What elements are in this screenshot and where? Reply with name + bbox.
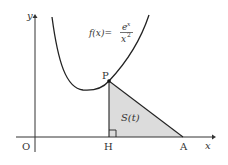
label-y-axis: y [26, 10, 33, 21]
function-curve [52, 15, 149, 90]
label-x-axis: x [205, 140, 211, 151]
label-A: A [179, 141, 188, 152]
function-label-den: x [121, 34, 126, 44]
label-origin: O [22, 141, 30, 152]
function-label: f(x)= e x x 2 [88, 20, 133, 44]
label-region: S(t) [121, 112, 140, 123]
function-label-num-exp: x [127, 20, 131, 27]
label-P: P [102, 70, 109, 81]
label-H: H [104, 141, 113, 152]
diagram-svg: y x O P H A S(t) f(x)= e x x 2 [0, 0, 228, 165]
function-label-lhs: f(x)= [88, 28, 112, 38]
function-label-den-exp: 2 [127, 31, 131, 38]
y-axis-arrow-icon [33, 14, 38, 18]
x-axis-arrow-icon [212, 135, 216, 140]
diagram: y x O P H A S(t) f(x)= e x x 2 [0, 0, 228, 165]
